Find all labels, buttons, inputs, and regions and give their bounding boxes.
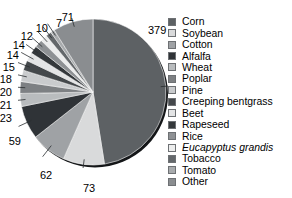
legend-item-label: Eucapyptus grandis	[182, 142, 273, 153]
legend-item[interactable]: Alfalfa	[168, 50, 292, 61]
legend-item[interactable]: Tomato	[168, 165, 292, 176]
chart-root: Total number of trials 798 3797362592321…	[0, 0, 292, 198]
legend-swatch-icon	[168, 18, 176, 26]
legend-swatch-icon	[168, 29, 176, 37]
pie-slice-label: 59	[9, 136, 21, 147]
pie-slice[interactable]	[93, 19, 166, 164]
legend-item[interactable]: Rice	[168, 130, 292, 141]
pie-slice-label: 12	[21, 31, 33, 42]
legend-item-label: Soybean	[182, 28, 223, 39]
legend-item[interactable]: Corn	[168, 16, 292, 27]
pie-slice-label: 73	[83, 183, 95, 194]
legend-item-label: Poplar	[182, 73, 212, 84]
page-title: Total number of trials 798	[2, 0, 118, 2]
pie-slice-label: 20	[0, 87, 12, 98]
pie-slice-label: 15	[3, 62, 15, 73]
pie-slice-label: 23	[0, 113, 12, 124]
legend-item-label: Rice	[182, 131, 203, 142]
legend-item-label: Tomato	[182, 165, 216, 176]
chart-title-label: Total number of trials	[2, 0, 83, 2]
legend-item[interactable]: Poplar	[168, 73, 292, 84]
legend-swatch-icon	[168, 109, 176, 117]
legend-item[interactable]: Wheat	[168, 62, 292, 73]
pie-slice-label: 18	[0, 74, 12, 85]
legend-swatch-icon	[168, 41, 176, 49]
legend-item[interactable]: Beet	[168, 108, 292, 119]
legend-swatch-icon	[168, 63, 176, 71]
legend-item-label: Corn	[182, 16, 205, 27]
legend-item[interactable]: Other	[168, 176, 292, 187]
legend-item[interactable]: Soybean	[168, 27, 292, 38]
legend-item[interactable]: Rapeseed	[168, 119, 292, 130]
pie-slice-label: 71	[62, 12, 74, 23]
pie-slice-label: 379	[148, 25, 166, 36]
legend-item-label: Beet	[182, 108, 203, 119]
chart-title-value: 798	[105, 0, 118, 2]
pie-slice-label: 14	[7, 50, 19, 61]
legend-swatch-icon	[168, 52, 176, 60]
legend-item-label: Creeping bentgrass	[182, 96, 273, 107]
legend-item-label: Tobacco	[182, 153, 221, 164]
legend-item[interactable]: Creeping bentgrass	[168, 96, 292, 107]
legend-swatch-icon	[168, 75, 176, 83]
pie-svg	[18, 18, 168, 168]
legend-item-label: Pine	[182, 85, 203, 96]
legend-item-label: Alfalfa	[182, 51, 211, 62]
legend-swatch-icon	[168, 144, 176, 152]
legend-swatch-icon	[168, 86, 176, 94]
pie-slice-label: 10	[36, 23, 48, 34]
legend-item[interactable]: Pine	[168, 85, 292, 96]
legend-swatch-icon	[168, 178, 176, 186]
legend-item-label: Cotton	[182, 39, 213, 50]
chart-legend: CornSoybeanCottonAlfalfaWheatPoplarPineC…	[168, 16, 292, 188]
pie-slice-label: 21	[0, 100, 12, 111]
legend-item[interactable]: Tobacco	[168, 153, 292, 164]
pie-chart	[18, 18, 168, 168]
legend-item[interactable]: Cotton	[168, 39, 292, 50]
legend-swatch-icon	[168, 166, 176, 174]
legend-item[interactable]: Eucapyptus grandis	[168, 142, 292, 153]
legend-item-label: Other	[182, 176, 208, 187]
legend-item-label: Wheat	[182, 62, 212, 73]
legend-swatch-icon	[168, 121, 176, 129]
pie-slice-label: 62	[40, 170, 52, 181]
legend-swatch-icon	[168, 132, 176, 140]
legend-swatch-icon	[168, 98, 176, 106]
chart-title-bar: Total number of trials 798	[0, 0, 292, 5]
legend-item-label: Rapeseed	[182, 119, 229, 130]
legend-swatch-icon	[168, 155, 176, 163]
